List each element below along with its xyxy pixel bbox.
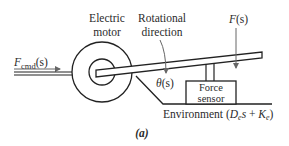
figure-caption: (a) xyxy=(135,127,149,140)
rotation-label-line2: direction xyxy=(142,26,183,38)
rotation-label-line1: Rotational xyxy=(138,12,186,24)
force-command-label: Fcmd(s) xyxy=(13,56,48,71)
theta-label: θ(s) xyxy=(156,77,174,90)
sensor-label-line2: sensor xyxy=(198,93,225,104)
motor-label-line2: motor xyxy=(93,26,121,38)
environment-label: Environment (Des + Ke) xyxy=(163,108,274,122)
motor-label-line1: Electric xyxy=(89,12,125,24)
force-output-label: F(s) xyxy=(228,13,248,26)
force-control-diagram: Electric motor Rotational direction F(s)… xyxy=(0,0,289,146)
sensor-label-line1: Force xyxy=(199,82,223,93)
